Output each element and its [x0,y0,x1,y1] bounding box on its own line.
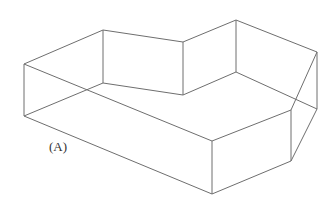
edge-top_right_front-top_front [212,110,291,141]
wireframe-prism-diagram [0,0,334,211]
edge-bottom_front-bottom_left [24,116,212,194]
edge-top_peak-top_right_back [236,20,317,52]
edge-bottom_back_left-bottom_notch [103,83,183,95]
panel-label: (A) [49,140,67,153]
edge-bottom_notch-bottom_peak [183,72,236,95]
edge-bottom_right_back-bottom_right_front [291,109,317,161]
edge-top_notch-top_peak [183,20,236,42]
edge-bottom_left-bottom_back_left [24,83,103,116]
edge-bottom_peak-bottom_right_back [236,72,317,109]
edge-top_back_left-top_notch [103,30,183,42]
edge-top_right_back-top_right_front [291,52,317,110]
prism-edges [24,20,317,194]
edge-bottom_right_front-bottom_front [212,161,291,194]
edge-top_left-top_back_left [24,30,103,64]
edge-top_front-top_left [24,64,212,141]
